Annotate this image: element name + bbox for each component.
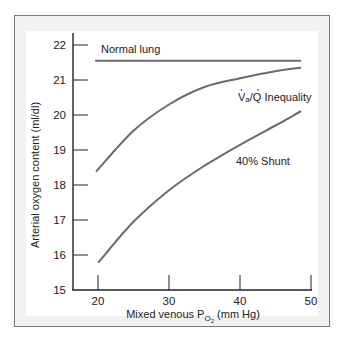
- y-tick-label: 18: [53, 179, 66, 191]
- y-tick-label: 19: [53, 144, 66, 156]
- x-tick-label: 50: [305, 295, 318, 307]
- y-tick-label: 16: [53, 249, 66, 261]
- y-tick-label: 20: [53, 109, 66, 121]
- axes: 151617181920212220304050: [53, 33, 317, 307]
- y-tick-label: 22: [53, 39, 66, 51]
- y-tick-label: 21: [53, 74, 66, 86]
- y-tick-label: 15: [53, 284, 66, 296]
- x-axis-title: Mixed venous PO2 (mm Hg): [126, 308, 260, 324]
- label-40-percent-shunt: 40% Shunt: [236, 155, 290, 167]
- label-normal-lung: Normal lung: [101, 43, 160, 55]
- y-axis-title: Arterial oxygen content (ml/dl): [29, 102, 41, 248]
- x-tick-label: 40: [234, 295, 247, 307]
- label-vq-inequality: Va/Q Inequality: [238, 91, 312, 104]
- chart: 151617181920212220304050 Normal lung Va/…: [0, 0, 345, 346]
- y-tick-label: 17: [53, 214, 66, 226]
- dot-over-v: [241, 89, 243, 91]
- x-tick-label: 30: [163, 295, 176, 307]
- dot-over-q: [257, 89, 259, 91]
- x-tick-label: 20: [92, 295, 105, 307]
